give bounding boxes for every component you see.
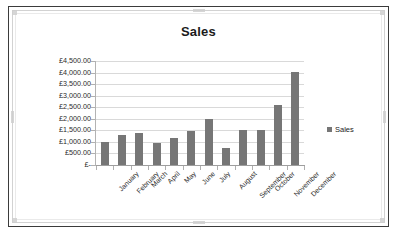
chart-legend[interactable]: Sales: [327, 125, 354, 134]
resize-handle-top-right[interactable]: [380, 10, 385, 15]
y-axis-tick-label: £2,500.00: [15, 103, 91, 111]
gridline: [96, 142, 304, 143]
gridline: [96, 73, 304, 74]
y-axis-tick: [91, 142, 95, 143]
y-axis-tick-label: £1,000.00: [15, 138, 91, 146]
x-axis-tick: [165, 166, 166, 170]
y-axis-tick: [91, 153, 95, 154]
legend-label-sales: Sales: [335, 125, 354, 134]
y-axis-tick-label: £-: [15, 161, 91, 169]
gridline: [96, 153, 304, 154]
bar[interactable]: [118, 135, 126, 165]
chart-object[interactable]: Sales £-£500.00£1,000.00£1,500.00£2,000.…: [8, 6, 389, 227]
y-axis-tick: [91, 107, 95, 108]
y-axis-tick: [91, 73, 95, 74]
legend-swatch-sales: [327, 127, 332, 132]
y-axis-tick-label: £4,500.00: [15, 57, 91, 65]
gridline: [96, 96, 304, 97]
bar[interactable]: [222, 148, 230, 165]
resize-handle-bottom-right[interactable]: [380, 218, 385, 223]
y-axis-tick-label: £500.00: [15, 149, 91, 157]
y-axis-tick: [91, 165, 95, 166]
bar[interactable]: [153, 143, 161, 165]
y-axis-tick-label: £3,000.00: [15, 92, 91, 100]
x-axis-category-label: May: [183, 170, 197, 184]
x-axis-category-label: April: [166, 170, 181, 185]
x-axis-tick: [113, 166, 114, 170]
x-axis-tick: [235, 166, 236, 170]
y-axis-tick: [91, 61, 95, 62]
bar[interactable]: [205, 119, 213, 165]
x-axis-tick: [217, 166, 218, 170]
y-axis-tick: [91, 119, 95, 120]
x-axis-tick: [287, 166, 288, 170]
bar[interactable]: [135, 133, 143, 165]
y-axis-tick: [91, 96, 95, 97]
x-axis-category-label: August: [237, 170, 257, 190]
y-axis-tick: [91, 130, 95, 131]
y-axis-tick-label: £4,000.00: [15, 69, 91, 77]
x-axis-tick: [96, 166, 97, 170]
gridline: [96, 61, 304, 62]
x-axis-tick: [148, 166, 149, 170]
x-axis-tick: [183, 166, 184, 170]
x-axis-category-label: June: [201, 170, 217, 186]
bar[interactable]: [170, 138, 178, 165]
x-axis-category-labels: JanuaryFebruaryMarchAprilMayJuneJulyAugu…: [96, 166, 304, 222]
y-axis-tick-label: £2,000.00: [15, 115, 91, 123]
resize-handle-top[interactable]: [193, 9, 205, 12]
bar[interactable]: [101, 142, 109, 165]
x-axis-tick: [304, 166, 305, 170]
x-axis-tick: [252, 166, 253, 170]
x-axis-category-label: July: [217, 170, 231, 184]
gridline: [96, 119, 304, 120]
gridline: [96, 84, 304, 85]
resize-handle-right[interactable]: [383, 111, 386, 123]
y-axis-tick: [91, 84, 95, 85]
bar[interactable]: [274, 105, 282, 165]
bar[interactable]: [239, 130, 247, 165]
plot-area[interactable]: [96, 61, 304, 165]
y-axis-tick-label: £1,500.00: [15, 126, 91, 134]
y-axis-tick-labels: £-£500.00£1,000.00£1,500.00£2,000.00£2,5…: [11, 7, 91, 226]
gridline: [96, 107, 304, 108]
y-axis-tick-label: £3,500.00: [15, 80, 91, 88]
bar[interactable]: [257, 130, 265, 165]
x-axis-tick: [269, 166, 270, 170]
bar[interactable]: [291, 72, 299, 165]
gridline: [96, 130, 304, 131]
x-axis-tick: [200, 166, 201, 170]
x-axis-tick: [131, 166, 132, 170]
bar[interactable]: [187, 131, 195, 165]
